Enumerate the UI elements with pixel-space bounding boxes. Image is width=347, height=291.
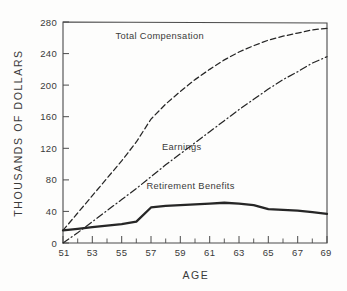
series-annotations: Total Compensation Earnings Retirement B… — [116, 31, 235, 191]
chart-canvas: 0 40 80 120 160 200 240 280 THOUSANDS OF… — [0, 0, 347, 291]
y-tick-label: 240 — [40, 48, 57, 59]
chart-figure: 0 40 80 120 160 200 240 280 THOUSANDS OF… — [0, 0, 347, 291]
y-tick-label: 0 — [51, 238, 57, 249]
x-tick-label: 67 — [292, 247, 303, 258]
y-tick-label: 160 — [40, 111, 57, 122]
x-axis-title: AGE — [183, 269, 210, 281]
x-tick-label: 65 — [263, 247, 274, 258]
annotation-earnings: Earnings — [162, 142, 202, 152]
series-total-compensation — [63, 28, 327, 230]
x-tick-label: 57 — [145, 247, 156, 258]
y-tick-label: 120 — [40, 143, 57, 154]
y-tick-label: 280 — [40, 17, 57, 28]
x-axis-minor-ticks — [78, 239, 313, 244]
x-tick-label: 51 — [58, 247, 69, 258]
x-tick-label: 53 — [87, 247, 98, 258]
y-tick-label: 40 — [46, 206, 57, 217]
data-series-group — [63, 28, 327, 243]
x-axis-tick-labels: 51 53 55 57 59 61 63 65 67 69 — [58, 247, 331, 258]
x-tick-label: 69 — [320, 247, 331, 258]
series-retirement-benefits — [63, 203, 327, 231]
annotation-total-compensation: Total Compensation — [116, 31, 204, 41]
y-tick-label: 200 — [40, 80, 57, 91]
x-tick-label: 63 — [233, 247, 244, 258]
x-tick-label: 61 — [204, 247, 215, 258]
annotation-retirement-benefits: Retirement Benefits — [146, 181, 234, 191]
y-axis-title: THOUSANDS OF DOLLARS — [12, 49, 24, 216]
y-axis-tick-labels: 0 40 80 120 160 200 240 280 — [40, 17, 57, 249]
y-axis-ticks — [63, 22, 69, 243]
y-tick-label: 80 — [46, 174, 57, 185]
x-tick-label: 59 — [175, 247, 186, 258]
x-tick-label: 55 — [116, 247, 127, 258]
